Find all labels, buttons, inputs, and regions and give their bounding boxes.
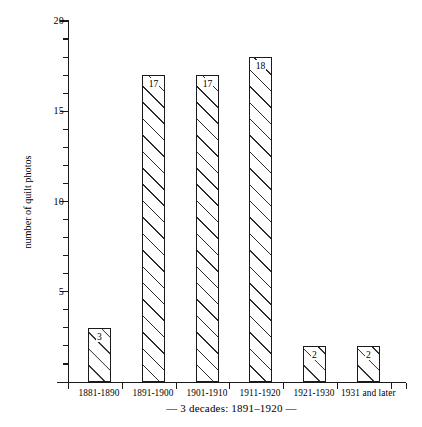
x-axis-tick-label: 1931 and later <box>341 388 395 399</box>
y-axis-tick-label: 10 <box>34 197 64 207</box>
x-axis-line <box>57 382 406 383</box>
y-axis-title: number of quilt photos <box>22 132 34 272</box>
bar: 2 <box>303 346 326 382</box>
y-axis-minor-tick <box>63 345 69 346</box>
y-axis-minor-tick <box>63 309 69 310</box>
y-axis-minor-tick <box>63 57 69 58</box>
y-axis-minor-tick <box>63 327 69 328</box>
bar-value-label: 3 <box>89 331 110 342</box>
bar-value-label: 2 <box>358 349 379 360</box>
bar-value-label: 18 <box>250 60 271 71</box>
bar: 17 <box>142 75 165 382</box>
y-axis-minor-tick <box>63 237 69 238</box>
x-axis-tick-label: 1881-1890 <box>72 388 126 399</box>
bar: 17 <box>196 75 219 382</box>
y-axis-minor-tick <box>63 129 69 130</box>
y-axis-minor-tick <box>63 147 69 148</box>
x-axis-tick-label: 1891-1900 <box>126 388 180 399</box>
x-axis-tick-label: 1921-1930 <box>287 388 341 399</box>
bar: 18 <box>249 57 272 382</box>
y-axis-tick-label: 5 <box>34 287 64 297</box>
y-axis-minor-tick <box>63 273 69 274</box>
x-axis-caption: — 3 decades: 1891–1920 — <box>57 402 406 415</box>
bar-value-label: 2 <box>304 349 325 360</box>
bar-chart: number of quilt photos 5101520 317171822… <box>0 0 422 427</box>
bar: 2 <box>357 346 380 382</box>
x-axis-tick <box>406 383 407 389</box>
y-axis-minor-tick <box>63 219 69 220</box>
y-axis-minor-tick <box>63 75 69 76</box>
x-axis-tick <box>68 383 69 389</box>
y-axis-tick-label: 15 <box>34 106 64 116</box>
bar: 3 <box>88 328 111 382</box>
y-axis-minor-tick <box>63 363 69 364</box>
y-axis-tick-label: 20 <box>34 16 64 26</box>
bar-value-label: 17 <box>143 78 164 89</box>
x-axis-tick-label: 1901-1910 <box>180 388 234 399</box>
x-axis-tick-label: 1911-1920 <box>233 388 287 399</box>
bar-value-label: 17 <box>197 78 218 89</box>
y-axis-minor-tick <box>63 165 69 166</box>
y-axis-minor-tick <box>63 255 69 256</box>
y-axis-minor-tick <box>63 38 69 39</box>
y-axis-minor-tick <box>63 93 69 94</box>
y-axis-minor-tick <box>63 183 69 184</box>
